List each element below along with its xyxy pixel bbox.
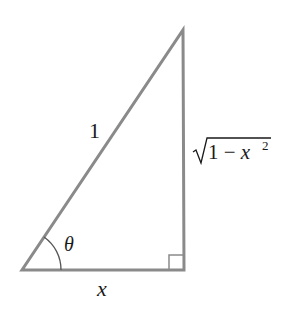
adjacent-label: x xyxy=(96,276,107,301)
radicand: 1 − xyxy=(208,140,241,164)
opposite-label: 1 − x xyxy=(208,140,251,164)
hypotenuse-label: 1 xyxy=(89,118,100,143)
right-angle-mark xyxy=(169,255,184,270)
angle-label: θ xyxy=(64,233,74,255)
angle-arc xyxy=(44,237,61,270)
exponent-label: 2 xyxy=(262,138,269,153)
triangle xyxy=(22,30,184,270)
right-triangle-diagram: 1 θ x 1 − x 2 xyxy=(0,0,290,309)
